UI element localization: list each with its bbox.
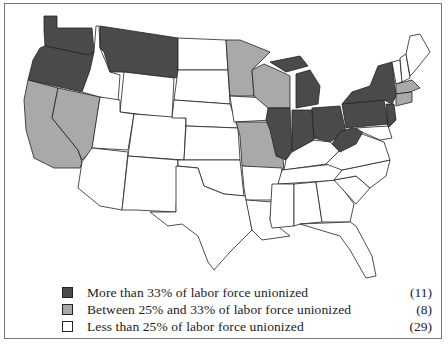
legend-label: Less than 25% of labor force unionized xyxy=(87,319,392,335)
state-wyoming xyxy=(120,72,174,118)
state-montana xyxy=(100,26,178,78)
legend-count: (29) xyxy=(392,319,432,335)
legend: More than 33% of labor force unionized (… xyxy=(62,284,432,335)
state-colorado xyxy=(128,114,186,160)
state-arizona xyxy=(78,148,128,210)
legend-label: More than 33% of labor force unionized xyxy=(87,285,392,301)
legend-swatch-high xyxy=(62,287,73,298)
state-south-dakota xyxy=(174,70,230,104)
state-kansas xyxy=(184,126,240,160)
state-new-mexico xyxy=(122,156,178,212)
state-maine xyxy=(406,34,430,76)
legend-label: Between 25% and 33% of labor force union… xyxy=(87,302,392,318)
legend-count: (8) xyxy=(392,302,432,318)
legend-row-high: More than 33% of labor force unionized (… xyxy=(62,284,432,301)
state-north-dakota xyxy=(178,38,228,70)
state-michigan-lower xyxy=(296,70,320,108)
state-connecticut xyxy=(396,92,412,106)
legend-swatch-mid xyxy=(62,304,73,315)
legend-swatch-low xyxy=(62,321,73,332)
state-pennsylvania xyxy=(342,100,388,128)
legend-row-low: Less than 25% of labor force unionized (… xyxy=(62,318,432,335)
legend-count: (11) xyxy=(392,285,432,301)
state-new-york xyxy=(342,62,396,104)
legend-row-mid: Between 25% and 33% of labor force union… xyxy=(62,301,432,318)
state-florida xyxy=(300,222,376,278)
state-mississippi xyxy=(270,184,294,228)
state-new-jersey xyxy=(386,104,396,128)
